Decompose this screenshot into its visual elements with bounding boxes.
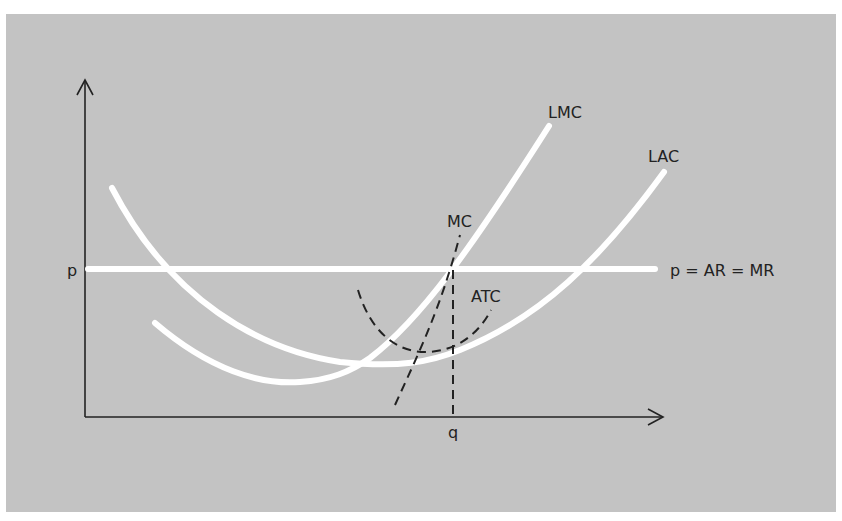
axes bbox=[77, 80, 663, 425]
lac-label: LAC bbox=[648, 147, 679, 166]
lmc-label: LMC bbox=[548, 103, 582, 122]
mc-label: MC bbox=[447, 212, 472, 231]
atc-label: ATC bbox=[471, 287, 501, 306]
p-axis-label: p bbox=[67, 261, 77, 280]
price-line-label: p = AR = MR bbox=[670, 261, 774, 280]
mc-curve bbox=[395, 235, 460, 405]
cost-curves-diagram: LMC LAC MC ATC p = AR = MR p q bbox=[0, 0, 842, 521]
lmc-curve bbox=[155, 126, 549, 382]
q-axis-label: q bbox=[448, 423, 458, 442]
